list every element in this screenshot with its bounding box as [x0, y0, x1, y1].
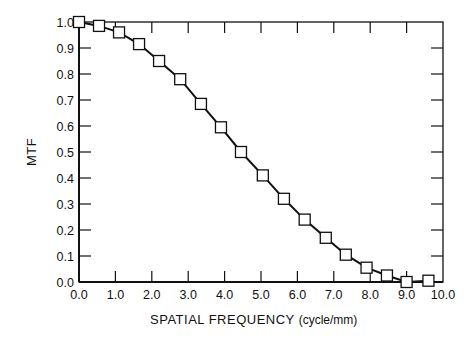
y-tick-label: 0.0 [57, 276, 74, 290]
square-marker-icon [320, 232, 331, 243]
y-tick-label: 0.5 [57, 146, 74, 160]
x-tick-label: 9.0 [398, 288, 415, 302]
square-marker-icon [340, 249, 351, 260]
x-axis-title: SPATIAL FREQUENCY (cycle/mm) [150, 312, 357, 327]
x-tick-label: 10.0 [431, 288, 455, 302]
square-marker-icon [423, 275, 434, 286]
y-axis-title: MTF [24, 138, 39, 166]
square-marker-icon [154, 56, 165, 67]
y-tick-label: 0.2 [57, 224, 74, 238]
square-marker-icon [175, 74, 186, 85]
square-marker-icon [299, 214, 310, 225]
y-tick-label: 0.9 [57, 42, 74, 56]
x-tick-label: 2.0 [143, 288, 160, 302]
square-marker-icon [257, 170, 268, 181]
x-tick-label: 4.0 [216, 288, 233, 302]
x-tick-label: 1.0 [107, 288, 124, 302]
y-tick-label: 0.8 [57, 68, 74, 82]
x-tick-label: 0.0 [70, 288, 87, 302]
y-tick-label: 0.3 [57, 198, 74, 212]
mtf-line [79, 22, 428, 282]
y-tick-label: 0.4 [57, 172, 74, 186]
plot-frame [79, 22, 443, 282]
y-tick-label: 0.1 [57, 250, 74, 264]
plot-area: 0.01.02.03.04.05.06.07.08.09.010.00.00.1… [57, 16, 456, 303]
square-marker-icon [361, 262, 372, 273]
square-marker-icon [74, 17, 85, 28]
square-marker-icon [215, 122, 226, 133]
x-tick-label: 5.0 [252, 288, 269, 302]
square-marker-icon [94, 20, 105, 31]
x-tick-label: 7.0 [325, 288, 342, 302]
square-marker-icon [278, 193, 289, 204]
y-tick-label: 0.7 [57, 94, 74, 108]
square-marker-icon [381, 270, 392, 281]
square-marker-icon [195, 98, 206, 109]
x-tick-label: 3.0 [180, 288, 197, 302]
y-tick-label: 0.6 [57, 120, 74, 134]
x-tick-label: 6.0 [289, 288, 306, 302]
square-marker-icon [235, 147, 246, 158]
mtf-chart: 0.01.02.03.04.05.06.07.08.09.010.00.00.1… [0, 0, 472, 339]
x-tick-label: 8.0 [362, 288, 379, 302]
square-marker-icon [114, 27, 125, 38]
square-marker-icon [401, 277, 412, 288]
y-tick-label: 1.0 [57, 16, 74, 30]
square-marker-icon [134, 39, 145, 50]
